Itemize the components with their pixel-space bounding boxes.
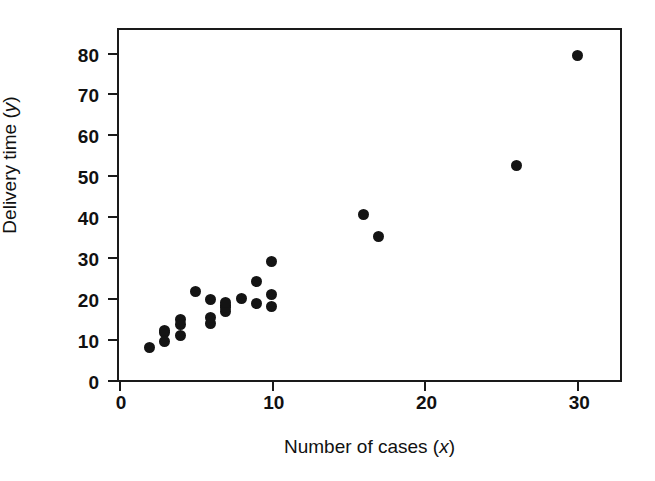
y-axis-tick-label: 60 <box>78 127 99 146</box>
x-axis-tick-label: 20 <box>416 393 437 412</box>
data-point <box>251 298 262 309</box>
y-axis-title-variable: y <box>0 103 20 113</box>
data-point <box>159 336 170 347</box>
y-axis-tick: 70 <box>108 93 119 95</box>
data-point <box>266 256 277 267</box>
x-axis-tick-label: 10 <box>263 393 284 412</box>
data-point <box>358 209 369 220</box>
plot-frame: 01020304050607080 0102030 <box>117 28 622 382</box>
data-point <box>236 293 247 304</box>
data-point <box>175 330 186 341</box>
y-axis-tick-label: 70 <box>78 86 99 105</box>
y-axis-tick-label: 20 <box>78 291 99 310</box>
x-axis-title: Number of cases (x) <box>117 437 622 456</box>
x-axis-tick-label: 0 <box>116 393 127 412</box>
y-axis-tick-label: 50 <box>78 168 99 187</box>
x-axis-title-tail: ) <box>449 436 455 457</box>
y-axis-title-text: Delivery time ( <box>0 112 20 233</box>
plot-area <box>119 30 620 380</box>
y-axis-tick-label: 80 <box>78 45 99 64</box>
y-axis-tick: 80 <box>108 53 119 55</box>
x-axis-title-variable: x <box>439 436 449 457</box>
x-axis-tick-label: 30 <box>569 393 590 412</box>
x-axis-tick: 10 <box>272 380 274 391</box>
y-axis-tick: 0 <box>108 380 119 382</box>
y-axis-tick: 30 <box>108 257 119 259</box>
data-point <box>175 319 186 330</box>
y-axis-tick: 60 <box>108 134 119 136</box>
data-point <box>190 286 201 297</box>
data-point <box>511 160 522 171</box>
y-axis-tick: 50 <box>108 175 119 177</box>
y-axis-tick: 40 <box>108 216 119 218</box>
data-point <box>144 342 155 353</box>
y-axis-tick-label: 30 <box>78 250 99 269</box>
x-axis-tick: 0 <box>119 380 121 391</box>
data-point <box>205 312 216 323</box>
y-axis-tick-label: 40 <box>78 209 99 228</box>
data-point <box>205 294 216 305</box>
data-point <box>266 301 277 312</box>
y-axis-tick-label: 10 <box>78 332 99 351</box>
y-axis-tick-label: 0 <box>88 373 99 392</box>
y-axis-tick: 20 <box>108 298 119 300</box>
data-point <box>266 289 277 300</box>
y-axis-tick: 10 <box>108 339 119 341</box>
x-axis-tick: 30 <box>577 380 579 391</box>
data-point <box>373 231 384 242</box>
x-axis-tick: 20 <box>424 380 426 391</box>
scatter-plot-figure: 01020304050607080 0102030 Number of case… <box>0 0 655 481</box>
y-axis-title-tail: ) <box>0 96 20 102</box>
y-axis-title: Delivery time (y) <box>0 0 40 342</box>
data-point <box>251 276 262 287</box>
data-point <box>572 50 583 61</box>
x-axis-title-text: Number of cases ( <box>284 436 439 457</box>
